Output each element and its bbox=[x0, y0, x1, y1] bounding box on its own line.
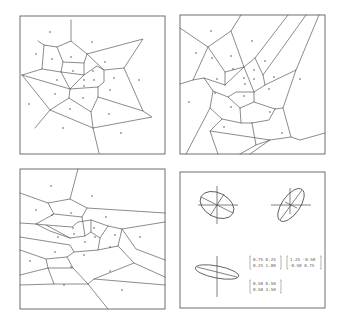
panel-frame bbox=[20, 169, 165, 309]
panel-frame bbox=[20, 16, 165, 154]
metric-ellipse-2 bbox=[271, 184, 311, 225]
voronoi-edges bbox=[22, 20, 152, 153]
panel-voronoi-top-right bbox=[180, 15, 325, 154]
matrix-2: 1.25 -0.50 -0.50 0.75 bbox=[287, 256, 321, 269]
matrix-3: 0.50 0.50 0.50 3.50 bbox=[250, 280, 281, 293]
matrix-3-row-2: 0.50 3.50 bbox=[253, 287, 276, 292]
voronoi-sites bbox=[29, 185, 141, 291]
panel-voronoi-bottom-left bbox=[20, 169, 165, 309]
matrix-1-row-2: 0.25 1.00 bbox=[253, 263, 276, 268]
voronoi-sites bbox=[28, 31, 140, 134]
voronoi-edges bbox=[20, 169, 165, 309]
figure-canvas: 0.75 0.25 0.25 1.00 1.25 -0.50 -0.50 0.7… bbox=[0, 0, 343, 325]
matrix-3-row-1: 0.50 0.50 bbox=[253, 281, 276, 286]
panel-voronoi-top-left bbox=[20, 16, 165, 154]
voronoi-edges bbox=[180, 15, 325, 154]
matrix-1-row-1: 0.75 0.25 bbox=[253, 257, 276, 262]
panel-frame bbox=[180, 15, 325, 154]
panel-metric-ellipses: 0.75 0.25 0.25 1.00 1.25 -0.50 -0.50 0.7… bbox=[180, 172, 325, 308]
matrix-1: 0.75 0.25 0.25 1.00 bbox=[250, 256, 281, 269]
matrix-2-row-2: -0.50 0.75 bbox=[289, 263, 315, 268]
matrix-2-row-1: 1.25 -0.50 bbox=[290, 257, 316, 262]
metric-ellipse-1 bbox=[195, 186, 238, 224]
metric-ellipse-3 bbox=[194, 256, 239, 297]
